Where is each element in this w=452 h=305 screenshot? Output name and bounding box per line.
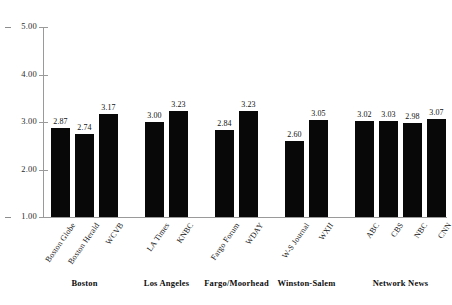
bar-boston-globe <box>51 128 70 217</box>
category-label-wcvb: WCVB <box>103 221 124 246</box>
bar-knbc <box>169 111 188 217</box>
category-label-fargo-forum: Fargo Forum <box>209 221 241 262</box>
category-label-cnn: CNN <box>436 221 452 240</box>
category-label-w-s-journal: W-S Journal <box>280 221 311 260</box>
y-tick-label-4-00: 4.00 <box>21 69 37 79</box>
category-label-la-times: LA Times <box>145 221 171 253</box>
bar-value-label: 3.00 <box>138 111 172 120</box>
group-label-winston-salem: Winston-Salem <box>277 278 335 288</box>
category-label-cbs: CBS <box>389 221 405 239</box>
bar-value-label: 3.23 <box>162 100 196 109</box>
bar-wcvb <box>99 114 118 217</box>
group-label-network-news: Network News <box>373 278 429 288</box>
y-tick-label-5-00: 5.00 <box>21 21 37 31</box>
y-tick-label-2-00: 2.00 <box>21 164 37 174</box>
category-label-wxii: WXII <box>316 221 334 242</box>
bar-nbc <box>403 123 422 217</box>
bar-cnn <box>427 119 446 217</box>
bar-cbs <box>379 121 398 217</box>
bar-fargo-forum <box>215 130 234 217</box>
y-axis-tick-labels: 5.004.003.002.001.00 <box>0 0 37 305</box>
bar-boston-herald <box>75 134 94 217</box>
bar-value-label: 3.07 <box>420 108 452 117</box>
category-label-wday: WDAY <box>243 221 265 246</box>
bar-la-times <box>145 122 164 217</box>
y-tick-label-1-00: 1.00 <box>21 211 37 221</box>
group-label-boston: Boston <box>71 278 97 288</box>
bar-value-label: 3.05 <box>302 109 336 118</box>
bar-value-label: 2.84 <box>208 119 242 128</box>
y-axis-end-dash <box>5 217 11 218</box>
y-tick-mark <box>39 217 48 218</box>
y-axis-end-dash <box>5 27 11 28</box>
group-label-los-angeles: Los Angeles <box>144 278 189 288</box>
bar-wday <box>239 111 258 217</box>
plot-area: 2.872.743.173.003.232.843.232.603.053.02… <box>43 27 447 217</box>
x-axis-baseline <box>43 217 447 218</box>
category-label-nbc: NBC <box>412 221 429 240</box>
bar-value-label: 3.23 <box>232 100 266 109</box>
group-label-fargo-moorhead: Fargo/Moorhead <box>204 278 269 288</box>
category-label-abc: ABC <box>364 221 381 240</box>
bar-w-s-journal <box>285 141 304 217</box>
bar-abc <box>355 121 374 217</box>
bar-chart: 5.004.003.002.001.00 2.872.743.173.003.2… <box>0 0 452 305</box>
category-label-knbc: KNBC <box>174 221 194 245</box>
bar-wxii <box>309 120 328 217</box>
bar-value-label: 3.17 <box>92 103 126 112</box>
y-tick-label-3-00: 3.00 <box>21 116 37 126</box>
bar-value-label: 2.60 <box>278 130 312 139</box>
bar-value-label: 2.74 <box>68 123 102 132</box>
